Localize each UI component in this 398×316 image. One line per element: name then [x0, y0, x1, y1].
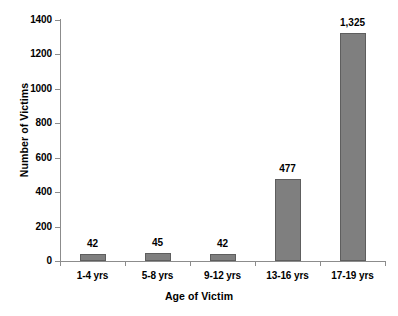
- bar-value-label: 45: [152, 238, 163, 248]
- y-axis-title: Number of Victims: [18, 60, 30, 200]
- x-axis-tick: [255, 261, 256, 266]
- y-axis-tick-label: 0: [6, 256, 52, 266]
- x-axis-tick: [125, 261, 126, 266]
- x-axis-category-label: 13-16 yrs: [266, 270, 308, 281]
- bar-value-label: 42: [217, 239, 228, 249]
- bar-chart: 0200400600800100012001400 4245424771,325…: [0, 0, 398, 316]
- x-axis-line: [60, 261, 385, 262]
- x-axis-category-label: 17-19 yrs: [331, 270, 373, 281]
- x-axis-tick: [320, 261, 321, 266]
- plot-area: [60, 20, 385, 261]
- bar: [275, 179, 301, 261]
- bar: [80, 254, 106, 261]
- bar-value-label: 477: [279, 164, 296, 174]
- bar-value-label: 1,325: [340, 18, 365, 28]
- x-axis-category-label: 1-4 yrs: [77, 270, 109, 281]
- x-axis-tick: [385, 261, 386, 266]
- y-axis-tick-label: 200: [6, 222, 52, 232]
- bar: [145, 253, 171, 261]
- bar: [210, 254, 236, 261]
- bar-value-label: 42: [87, 239, 98, 249]
- x-axis-category-label: 5-8 yrs: [142, 270, 174, 281]
- x-axis-title: Age of Victim: [0, 290, 398, 302]
- x-axis-category-label: 9-12 yrs: [204, 270, 241, 281]
- x-axis-tick: [60, 261, 61, 266]
- y-axis-tick-label: 1400: [6, 15, 52, 25]
- y-axis-tick-label: 1200: [6, 49, 52, 59]
- x-axis-tick: [190, 261, 191, 266]
- bar: [340, 33, 366, 261]
